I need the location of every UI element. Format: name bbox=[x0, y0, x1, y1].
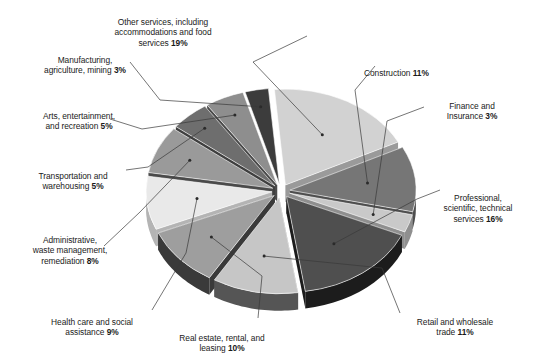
label-percent: 16% bbox=[486, 214, 503, 224]
label-administrative: Administrative, waste management, remedi… bbox=[6, 224, 134, 266]
leader-anchor-dot bbox=[203, 127, 206, 130]
leader-anchor-dot bbox=[321, 133, 324, 136]
pie-slice-tops bbox=[146, 89, 416, 294]
label-percent: 5% bbox=[101, 121, 113, 131]
leader-anchor-dot bbox=[263, 255, 266, 258]
label-retail-wholesale: Retail and wholesale trade 11% bbox=[392, 306, 518, 338]
label-text: Construction bbox=[364, 68, 413, 78]
leader-anchor-dot bbox=[210, 236, 213, 239]
label-percent: 11% bbox=[413, 68, 429, 78]
label-manufacturing: Manufacturing, agriculture, mining 3% bbox=[16, 44, 154, 76]
leader-anchor-dot bbox=[196, 197, 199, 200]
leader-anchor-dot bbox=[366, 182, 369, 185]
pie-chart: Other services, including accommodations… bbox=[0, 0, 533, 364]
label-text: Health care and social assistance bbox=[51, 317, 133, 338]
label-other-services: Other services, including accommodations… bbox=[88, 6, 238, 48]
leader-anchor-dot bbox=[188, 159, 191, 162]
label-percent: 3% bbox=[114, 65, 126, 75]
label-percent: 3% bbox=[485, 111, 497, 121]
label-transportation: Transportation and warehousing 5% bbox=[6, 160, 140, 192]
label-percent: 11% bbox=[457, 327, 473, 337]
label-arts-entertainment: Arts, entertainment, and recreation 5% bbox=[10, 100, 148, 132]
label-percent: 10% bbox=[228, 343, 245, 353]
label-percent: 5% bbox=[92, 181, 104, 191]
leader-anchor-dot bbox=[332, 242, 335, 245]
label-construction: Construction 11% bbox=[364, 57, 484, 78]
label-percent: 9% bbox=[107, 327, 119, 337]
label-text: Manufacturing, agriculture, mining bbox=[44, 55, 114, 76]
label-percent: 19% bbox=[171, 38, 188, 48]
label-percent: 8% bbox=[87, 256, 99, 266]
label-real-estate: Real estate, rental, and leasing 10% bbox=[152, 322, 292, 354]
label-finance-insurance: Finance and Insurance 3% bbox=[424, 90, 520, 122]
label-professional-services: Professional, scientific, technical serv… bbox=[426, 182, 530, 224]
label-health-care: Health care and social assistance 9% bbox=[22, 306, 162, 338]
leader-anchor-dot bbox=[259, 105, 262, 108]
leader-anchor-dot bbox=[372, 213, 375, 216]
label-text: Real estate, rental, and leasing bbox=[179, 333, 264, 354]
label-text: Retail and wholesale trade bbox=[417, 317, 493, 338]
leader-anchor-dot bbox=[233, 114, 236, 117]
